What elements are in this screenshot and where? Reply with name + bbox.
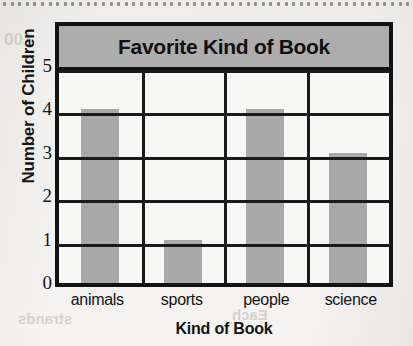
x-axis-title: Kind of Book xyxy=(55,320,393,338)
bar-cell xyxy=(307,70,390,283)
bar[interactable] xyxy=(246,109,284,283)
worksheet-page: 100 10.2 picture graph tally classify ta… xyxy=(0,0,413,346)
chart-frame: Favorite Kind of Book xyxy=(55,22,393,287)
y-axis-tick-label: 0 xyxy=(26,273,52,292)
y-axis-tick-label: 1 xyxy=(26,230,52,249)
y-axis-tick-label: 3 xyxy=(26,143,52,162)
y-axis-tick-label: 4 xyxy=(26,99,52,118)
chart-title: Favorite Kind of Book xyxy=(118,35,330,59)
x-axis-tick-label: people xyxy=(224,291,309,309)
x-axis-tick-label: sports xyxy=(140,291,225,309)
bar-cell xyxy=(224,70,307,283)
x-axis-tick-label: animals xyxy=(55,291,140,309)
bar[interactable] xyxy=(329,153,367,283)
notebook-perforation-edge xyxy=(0,2,413,9)
chart-title-band: Favorite Kind of Book xyxy=(59,26,389,70)
vertical-gridline xyxy=(224,70,227,283)
x-axis-tick-label: science xyxy=(309,291,394,309)
y-axis-tick-label: 2 xyxy=(26,186,52,205)
bar-cell xyxy=(59,70,142,283)
y-axis-tick-labels: 012345 xyxy=(26,0,52,346)
y-axis-tick-label: 5 xyxy=(26,56,52,75)
vertical-gridline xyxy=(307,70,310,283)
x-axis-tick-labels: animalssportspeoplescience xyxy=(55,291,393,309)
vertical-gridline xyxy=(142,70,145,283)
bar[interactable] xyxy=(81,109,119,283)
plot-area xyxy=(59,70,389,283)
bar-cell xyxy=(142,70,225,283)
